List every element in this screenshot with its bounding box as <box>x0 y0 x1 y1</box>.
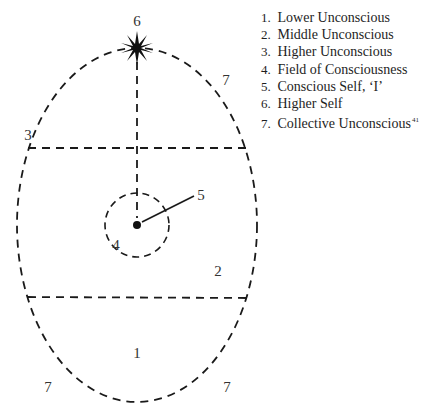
region-label-7-lower-right: 7 <box>223 379 231 395</box>
legend-number: 7. <box>261 115 274 132</box>
legend-label: Field of Consciousness <box>278 62 408 77</box>
legend-label: Conscious Self, ‘I’ <box>278 79 383 94</box>
legend-item-1: 1. Lower Unconscious <box>261 9 419 26</box>
legend-number: 2. <box>261 26 274 43</box>
region-label-7-upper-right: 7 <box>222 72 230 88</box>
legend: 1. Lower Unconscious 2. Middle Unconscio… <box>261 9 419 132</box>
legend-label: Collective Unconscious <box>278 116 411 131</box>
region-label-2: 2 <box>214 263 222 279</box>
legend-item-6: 6. Higher Self <box>261 95 419 112</box>
region-label-6: 6 <box>133 13 141 29</box>
region-label-5: 5 <box>197 187 205 203</box>
footnote-marker[interactable]: 41 <box>412 116 419 124</box>
legend-label: Higher Unconscious <box>278 44 393 59</box>
legend-label: Lower Unconscious <box>278 10 390 25</box>
legend-number: 1. <box>261 9 274 26</box>
region-label-1: 1 <box>133 345 141 361</box>
legend-label: Middle Unconscious <box>278 27 394 42</box>
conscious-self-dot <box>133 221 141 229</box>
lower-divider-line <box>28 297 246 298</box>
legend-number: 4. <box>261 61 274 78</box>
region-label-7-lower-left: 7 <box>44 379 52 395</box>
legend-item-2: 2. Middle Unconscious <box>261 26 419 43</box>
legend-number: 3. <box>261 43 274 60</box>
region-label-3: 3 <box>24 127 32 143</box>
legend-item-3: 3. Higher Unconscious <box>261 43 419 60</box>
legend-item-7: 7. Collective Unconscious41 <box>261 112 419 132</box>
legend-label: Higher Self <box>278 96 343 111</box>
legend-item-5: 5. Conscious Self, ‘I’ <box>261 78 419 95</box>
legend-number: 5. <box>261 78 274 95</box>
legend-number: 6. <box>261 95 274 112</box>
region-label-4: 4 <box>112 237 120 253</box>
legend-item-4: 4. Field of Consciousness <box>261 61 419 78</box>
